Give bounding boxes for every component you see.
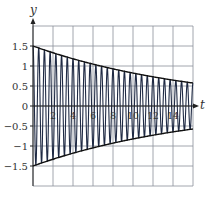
y-axis-label: y bbox=[29, 3, 37, 17]
y-tick-label: −1.5 bbox=[4, 161, 28, 172]
x-tick-label: 2 bbox=[50, 111, 56, 121]
y-tick-label: 1.5 bbox=[12, 41, 28, 52]
y-tick-label: 0 bbox=[22, 101, 28, 112]
x-axis-label: t bbox=[200, 98, 205, 112]
damped-oscillation-chart: 1.510.50−0.5−1−1.52468101214 t y bbox=[0, 0, 215, 202]
x-tick-label: 4 bbox=[70, 111, 76, 121]
y-tick-label: 1 bbox=[22, 61, 28, 72]
x-tick-label: 14 bbox=[167, 111, 179, 121]
y-tick-label: −0.5 bbox=[4, 121, 28, 132]
x-tick-label: 6 bbox=[90, 111, 96, 121]
y-tick-label: −1 bbox=[13, 141, 28, 152]
y-tick-label: 0.5 bbox=[12, 81, 28, 92]
x-tick-label: 8 bbox=[110, 111, 116, 121]
x-tick-label: 12 bbox=[147, 111, 158, 121]
y-axis-arrow-icon bbox=[31, 18, 36, 24]
x-axis-arrow-icon bbox=[193, 104, 199, 109]
x-tick-label: 10 bbox=[127, 111, 139, 121]
